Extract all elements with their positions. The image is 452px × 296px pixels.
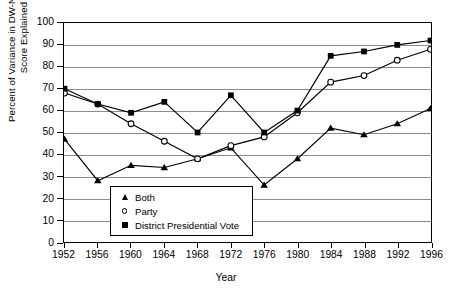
data-point bbox=[228, 143, 234, 149]
y-axis-title: Percent of Variance in DW-NOMINATE Score… bbox=[6, 0, 29, 152]
series-party bbox=[64, 46, 431, 161]
data-point bbox=[95, 101, 101, 107]
x-tick-mark bbox=[197, 243, 198, 248]
y-tick-label: 70 bbox=[28, 83, 54, 93]
series-line bbox=[64, 41, 430, 133]
legend-item-label: Party bbox=[135, 206, 157, 217]
x-tick-mark bbox=[432, 243, 433, 248]
y-tick-label: 30 bbox=[28, 172, 54, 182]
data-point bbox=[394, 42, 400, 48]
y-axis-title-wrap: Percent of Variance in DW-NOMINATE Score… bbox=[0, 0, 40, 252]
data-point bbox=[361, 73, 367, 79]
data-point bbox=[361, 49, 367, 55]
filled-triangle-glyph bbox=[122, 194, 128, 200]
y-tick-label: 90 bbox=[28, 39, 54, 49]
filled-square-glyph bbox=[122, 222, 128, 228]
legend-item-party: Party bbox=[111, 204, 252, 218]
data-point bbox=[295, 108, 301, 114]
x-tick-mark bbox=[331, 243, 332, 248]
x-tick-mark bbox=[130, 243, 131, 248]
data-point bbox=[393, 120, 401, 126]
data-point bbox=[428, 38, 431, 44]
x-tick-mark bbox=[97, 243, 98, 248]
x-tick-mark bbox=[264, 243, 265, 248]
legend-item-district-presidential-vote: District Presidential Vote bbox=[111, 218, 252, 232]
data-point bbox=[161, 138, 167, 144]
x-tick-mark bbox=[64, 243, 65, 248]
data-point bbox=[128, 121, 134, 127]
data-point bbox=[127, 162, 135, 168]
data-point bbox=[161, 99, 167, 105]
y-tick-label: 80 bbox=[28, 61, 54, 71]
y-tick-label: 100 bbox=[28, 17, 54, 27]
legend-item-both: Both bbox=[111, 190, 252, 204]
data-point bbox=[195, 156, 201, 162]
data-point bbox=[261, 130, 267, 136]
data-point bbox=[64, 86, 67, 92]
x-tick-mark bbox=[298, 243, 299, 248]
data-point bbox=[64, 136, 68, 142]
x-tick-mark bbox=[164, 243, 165, 248]
series-line bbox=[64, 108, 430, 185]
data-point bbox=[327, 125, 335, 131]
y-tick-label: 60 bbox=[28, 105, 54, 115]
x-axis-title: Year bbox=[0, 272, 452, 283]
data-point bbox=[328, 79, 334, 85]
y-axis-title-text: Percent of Variance in DW-NOMINATE Score… bbox=[6, 0, 29, 122]
y-tick-label: 20 bbox=[28, 194, 54, 204]
y-tick-label: 50 bbox=[28, 127, 54, 137]
series-district-presidential-vote bbox=[64, 38, 431, 136]
y-tick-label: 40 bbox=[28, 149, 54, 159]
data-point bbox=[427, 105, 431, 111]
legend-item-label: Both bbox=[135, 192, 155, 203]
x-tick-label: 1996 bbox=[412, 249, 452, 260]
x-tick-mark bbox=[398, 243, 399, 248]
filled-triangle-icon bbox=[122, 194, 135, 200]
series-line bbox=[64, 49, 430, 159]
legend: BothPartyDistrict Presidential Vote bbox=[110, 186, 253, 236]
y-tick-label: 0 bbox=[28, 238, 54, 248]
x-tick-mark bbox=[365, 243, 366, 248]
data-point bbox=[394, 57, 400, 63]
x-tick-mark bbox=[231, 243, 232, 248]
open-circle-icon bbox=[122, 208, 135, 213]
y-tick-label: 10 bbox=[28, 216, 54, 226]
data-point bbox=[128, 110, 134, 116]
data-point bbox=[328, 53, 334, 59]
data-point bbox=[228, 92, 234, 98]
data-point bbox=[195, 130, 201, 136]
filled-square-icon bbox=[122, 222, 135, 228]
open-circle-glyph bbox=[122, 208, 127, 213]
chart-container: Percent of Variance in DW-NOMINATE Score… bbox=[0, 0, 452, 296]
data-point bbox=[428, 46, 431, 52]
legend-item-label: District Presidential Vote bbox=[135, 220, 239, 231]
